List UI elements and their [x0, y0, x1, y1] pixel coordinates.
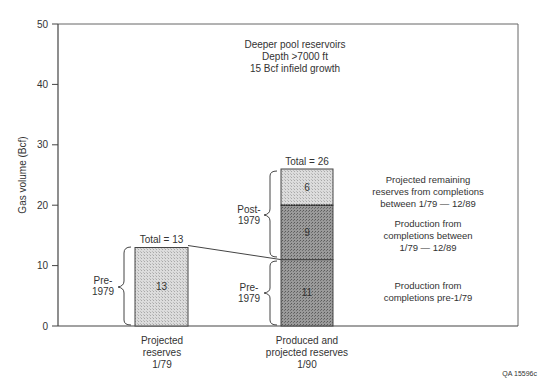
bar2-total: Total = 26 [285, 156, 329, 167]
svg-text:Produced and: Produced and [276, 335, 338, 346]
post-label-1: Post- [237, 204, 260, 215]
bar2-seg3-value: 6 [304, 182, 310, 193]
svg-text:completions pre-1/79: completions pre-1/79 [384, 292, 473, 303]
svg-text:projected reserves: projected reserves [266, 347, 348, 358]
svg-text:reserves from completions: reserves from completions [372, 186, 484, 197]
bar2-seg1-value: 11 [302, 287, 313, 298]
svg-text:1/79: 1/79 [152, 359, 172, 370]
bar-produced-projected-1-90: 11 9 6 Total = 26 [281, 156, 333, 326]
y-tick-labels: 50 40 30 20 10 0 [37, 19, 49, 332]
ytick-40: 40 [37, 79, 49, 90]
segment-annotations: Projected remaining reserves from comple… [372, 174, 484, 303]
figure-id: QA 15596c [502, 370, 537, 378]
y-axis-label: Gas volume (Bcf) [17, 136, 28, 213]
connector-line [188, 246, 281, 260]
bar-projected-1-79: 13 Total = 13 [135, 234, 188, 326]
svg-text:15 Bcf infield growth: 15 Bcf infield growth [250, 63, 340, 74]
ytick-10: 10 [37, 260, 49, 271]
svg-text:Projected remaining: Projected remaining [386, 174, 471, 185]
svg-text:Deeper pool reservoirs: Deeper pool reservoirs [244, 39, 345, 50]
right-pre-label-1: Pre- [240, 282, 259, 293]
ytick-0: 0 [42, 321, 48, 332]
ytick-30: 30 [37, 139, 49, 150]
svg-text:1/79 — 12/89: 1/79 — 12/89 [399, 242, 456, 253]
svg-text:Production from: Production from [394, 280, 461, 291]
bar1-value: 13 [156, 281, 168, 292]
svg-text:1/90: 1/90 [297, 359, 317, 370]
svg-text:Projected: Projected [141, 335, 183, 346]
category-labels: Projected reserves 1/79 Produced and pro… [141, 335, 348, 370]
svg-text:reserves: reserves [143, 347, 181, 358]
y-ticks [52, 24, 58, 266]
ytick-20: 20 [37, 200, 49, 211]
left-pre-label-1: Pre- [94, 275, 113, 286]
ytick-50: 50 [37, 19, 49, 30]
bar1-total: Total = 13 [140, 234, 184, 245]
right-pre-label-2: 1979 [238, 293, 261, 304]
chart: 50 40 30 20 10 0 Gas volume (Bcf) Deeper… [0, 0, 547, 384]
left-pre-label-2: 1979 [92, 286, 115, 297]
svg-text:between 1/79 — 12/89: between 1/79 — 12/89 [380, 198, 476, 209]
svg-text:completions between: completions between [383, 230, 472, 241]
svg-text:Production from: Production from [394, 218, 461, 229]
svg-text:Depth >7000 ft: Depth >7000 ft [262, 51, 328, 62]
bar2-seg2-value: 9 [304, 227, 310, 238]
chart-title: Deeper pool reservoirs Depth >7000 ft 15… [244, 39, 345, 74]
post-label-2: 1979 [238, 215, 261, 226]
